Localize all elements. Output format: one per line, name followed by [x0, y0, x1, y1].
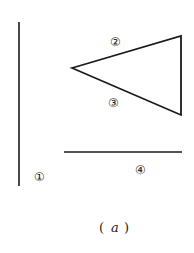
- label-3: ③: [108, 96, 119, 110]
- label-1: ①: [34, 170, 45, 184]
- diagram-canvas: ② ③ ① ④ ( a ): [0, 0, 194, 253]
- caption-open-paren: (: [99, 220, 104, 235]
- caption-close-paren: ): [124, 220, 129, 235]
- label-4: ④: [135, 163, 146, 177]
- label-2: ②: [110, 35, 121, 49]
- triangle: [72, 36, 181, 115]
- caption-letter: a: [111, 220, 119, 235]
